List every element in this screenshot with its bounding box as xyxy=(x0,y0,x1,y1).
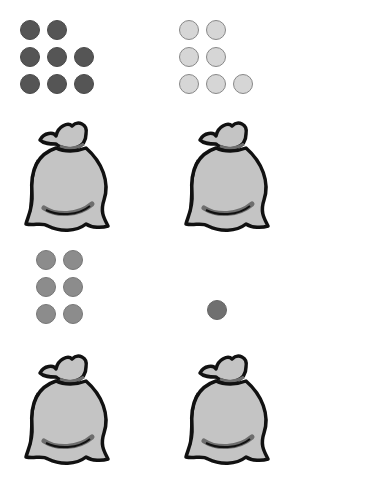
counting-dot xyxy=(63,304,83,324)
money-bag-icon xyxy=(180,345,280,470)
counting-dot xyxy=(47,74,67,94)
counting-dot xyxy=(233,74,253,94)
counting-dot xyxy=(179,74,199,94)
counting-dot xyxy=(179,20,199,40)
counting-dot xyxy=(206,20,226,40)
counting-dot xyxy=(36,304,56,324)
counting-dot xyxy=(36,250,56,270)
money-bag-icon xyxy=(20,345,120,470)
counting-dot xyxy=(207,300,227,320)
counting-dot xyxy=(36,277,56,297)
counting-dot xyxy=(20,74,40,94)
counting-dot xyxy=(63,277,83,297)
money-bag-icon xyxy=(180,112,280,237)
counting-dot xyxy=(63,250,83,270)
counting-dot xyxy=(47,47,67,67)
counting-dot xyxy=(20,20,40,40)
counting-dot xyxy=(74,47,94,67)
counting-dot xyxy=(74,74,94,94)
counting-dot xyxy=(206,74,226,94)
money-bag-icon xyxy=(20,112,120,237)
counting-dot xyxy=(179,47,199,67)
counting-dot xyxy=(20,47,40,67)
counting-dot xyxy=(206,47,226,67)
counting-dot xyxy=(47,20,67,40)
